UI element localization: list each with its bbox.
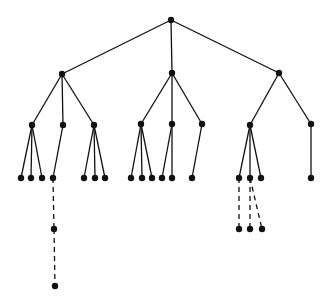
tree-node-a2: [60, 122, 66, 128]
edge-b1-b1x: [131, 124, 141, 178]
tree-node-b2: [169, 121, 175, 127]
edge-b2-b2x: [162, 124, 172, 178]
tree-node-c1x1: [236, 226, 242, 232]
edge-a1-a1y: [31, 125, 32, 178]
tree-node-b3x: [189, 175, 195, 181]
tree-node-b3: [199, 121, 205, 127]
edge-a3-a3z: [94, 125, 105, 178]
tree-node-c1: [247, 122, 253, 128]
tree-node-c1y: [247, 175, 253, 181]
tree-node-b1y: [139, 175, 145, 181]
edge-root-b: [171, 20, 172, 73]
tree-node-c1x: [236, 175, 242, 181]
edge-c1-c1z: [250, 125, 261, 178]
tree-diagram: [0, 0, 333, 305]
tree-node-a3z: [102, 175, 108, 181]
edge-a-a2: [62, 74, 63, 125]
tree-node-a1: [29, 122, 35, 128]
tree-node-b1z: [149, 175, 155, 181]
tree-node-a3: [91, 122, 97, 128]
edge-a1-a1x: [21, 125, 32, 178]
edge-a2-a2x: [53, 125, 63, 178]
edge-c-c2: [279, 73, 311, 124]
edge-a3-a3y: [94, 125, 95, 178]
dashed-edge-a2x-a2x1: [53, 178, 54, 229]
tree-node-a1y: [28, 175, 34, 181]
edge-root-c: [171, 20, 279, 73]
edge-b-b1: [141, 73, 172, 124]
dashed-edge-a2x1-a2x2: [54, 229, 55, 286]
tree-node-b2y: [169, 175, 175, 181]
tree-node-c2x: [308, 175, 314, 181]
dashed-edge-c1y-c1y2: [250, 178, 262, 229]
tree-node-c1y1: [247, 226, 253, 232]
edge-b1-b1z: [141, 124, 152, 178]
tree-node-b1x: [128, 175, 134, 181]
tree-node-a2x1: [51, 226, 57, 232]
tree-node-a2x2: [52, 283, 58, 289]
tree-node-c1z: [258, 175, 264, 181]
tree-node-b2x: [159, 175, 165, 181]
edge-a-a1: [32, 74, 62, 125]
tree-edges: [21, 20, 311, 286]
edge-a1-a1z: [32, 125, 42, 178]
tree-node-c1y2: [259, 226, 265, 232]
edge-a3-a3x: [84, 125, 94, 178]
edge-b3-b3x: [192, 124, 202, 178]
tree-node-a1x: [18, 175, 24, 181]
tree-node-a3x: [81, 175, 87, 181]
edge-root-a: [62, 20, 171, 74]
edge-b-b3: [172, 73, 202, 124]
tree-node-b1: [138, 121, 144, 127]
tree-node-root: [168, 17, 174, 23]
tree-node-a1z: [39, 175, 45, 181]
edge-b1-b1y: [141, 124, 142, 178]
tree-node-a3y: [92, 175, 98, 181]
tree-node-a: [59, 71, 65, 77]
tree-node-c2: [308, 121, 314, 127]
tree-node-b: [169, 70, 175, 76]
edge-c1-c1x: [239, 125, 250, 178]
tree-node-a2x: [50, 175, 56, 181]
edge-c-c1: [250, 73, 279, 125]
edge-a-a3: [62, 74, 94, 125]
tree-node-c: [276, 70, 282, 76]
